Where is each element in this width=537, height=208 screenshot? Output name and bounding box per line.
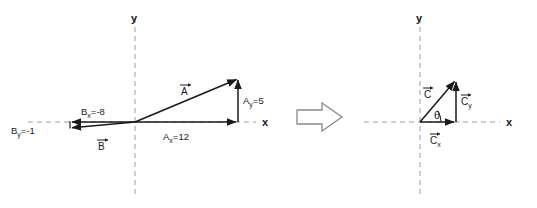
left-x-axis-label: x xyxy=(262,116,269,128)
angle-theta-label: θ xyxy=(434,109,440,121)
left-axes: y x xyxy=(28,12,269,198)
vector-c-x-label: Cx xyxy=(430,135,441,148)
right-axes: y x xyxy=(364,12,513,198)
left-panel: y x A Ax=12 Ay=5 xyxy=(11,12,269,198)
figure-canvas: y x A Ax=12 Ay=5 xyxy=(0,0,537,208)
vector-b-y-label-group: By=-1 xyxy=(11,125,35,139)
vector-c-label-group: C xyxy=(423,86,433,100)
vector-a-x-label-group: Ax=12 xyxy=(163,131,189,144)
vector-a-y-label: Ay=5 xyxy=(243,95,264,109)
vector-a-label: A xyxy=(181,86,188,97)
block-arrow-icon xyxy=(297,103,342,131)
vector-b-label: B xyxy=(98,141,105,152)
vector-a-group: A Ax=12 Ay=5 xyxy=(135,80,264,144)
right-y-axis-label: y xyxy=(416,12,423,24)
vector-c-group: θ C Cx Cy xyxy=(420,82,472,148)
vector-b-overline-arrow xyxy=(105,138,108,141)
vector-b-x-label: Bx=-8 xyxy=(81,106,105,119)
vector-b-y-label: By=-1 xyxy=(11,125,35,139)
vector-b-group: B Bx=-8 By=-1 xyxy=(11,106,135,152)
vector-c-y-overline-arrow xyxy=(468,93,471,96)
vector-a-y-label-group: Ay=5 xyxy=(243,95,264,109)
vector-b xyxy=(72,122,135,128)
right-panel: y x θ C Cx xyxy=(364,12,513,198)
vector-c-x-label-group: Cx xyxy=(430,132,441,147)
vector-b-x-label-group: Bx=-8 xyxy=(81,106,105,119)
right-x-axis-label: x xyxy=(506,116,513,128)
vector-c-y-label-group: Cy xyxy=(461,93,472,109)
vector-b-label-group: B xyxy=(97,138,108,152)
vector-c-x-overline-arrow xyxy=(437,132,440,135)
vector-a-label-group: A xyxy=(180,83,191,97)
vector-c-label: C xyxy=(424,89,431,100)
vector-c-y-label: Cy xyxy=(461,96,472,110)
vector-a-overline-arrow xyxy=(188,83,191,86)
vector-a-x-label: Ax=12 xyxy=(163,131,189,144)
left-y-axis-label: y xyxy=(131,12,138,24)
